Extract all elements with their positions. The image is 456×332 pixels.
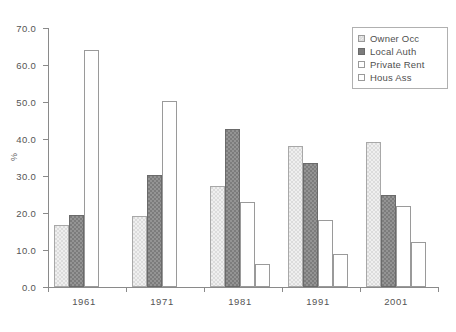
bar-1991-hous-ass xyxy=(333,254,348,287)
y-axis-tick xyxy=(43,65,48,66)
y-axis-tick xyxy=(43,176,48,177)
legend-item-private-rent[interactable]: Private Rent xyxy=(358,58,442,71)
legend-swatch-icon xyxy=(358,35,365,42)
legend-label: Local Auth xyxy=(370,46,416,57)
x-axis-label-1981: 1981 xyxy=(228,296,252,307)
bar-1961-owner-occ xyxy=(54,225,69,287)
y-axis-label: 30.0 xyxy=(0,171,36,182)
bar-2001-local-auth xyxy=(381,195,396,288)
y-axis-tick xyxy=(43,250,48,251)
legend-swatch-icon xyxy=(358,61,365,68)
x-axis-line xyxy=(48,287,439,288)
y-axis-tick xyxy=(43,28,48,29)
legend-swatch-icon xyxy=(358,74,365,81)
legend-label: Owner Occ xyxy=(370,33,419,44)
x-axis-label-1961: 1961 xyxy=(72,296,96,307)
x-axis-tick xyxy=(126,287,127,292)
x-axis-label-2001: 2001 xyxy=(384,296,408,307)
y-axis-label: 10.0 xyxy=(0,245,36,256)
x-axis-label-1991: 1991 xyxy=(306,296,330,307)
legend-label: Hous Ass xyxy=(370,72,412,83)
bar-1981-private-rent xyxy=(240,202,255,287)
y-axis-tick xyxy=(43,102,48,103)
bar-1971-owner-occ xyxy=(132,216,147,287)
legend-label: Private Rent xyxy=(370,59,425,70)
bar-2001-private-rent xyxy=(396,206,411,287)
bar-1981-local-auth xyxy=(225,129,240,287)
x-axis-tick xyxy=(360,287,361,292)
bar-1971-private-rent xyxy=(162,101,177,287)
y-axis-title: % xyxy=(9,153,19,161)
y-axis-label: 0.0 xyxy=(0,282,36,293)
bar-1991-private-rent xyxy=(318,220,333,287)
bar-1961-local-auth xyxy=(69,215,84,287)
y-axis-label: 70.0 xyxy=(0,23,36,34)
bar-1981-owner-occ xyxy=(210,186,225,287)
legend-item-hous-ass[interactable]: Hous Ass xyxy=(358,71,442,84)
x-axis-tick xyxy=(48,287,49,292)
y-axis-label: 60.0 xyxy=(0,60,36,71)
x-axis-label-1971: 1971 xyxy=(150,296,174,307)
bar-2001-owner-occ xyxy=(366,142,381,287)
bar-1991-local-auth xyxy=(303,163,318,287)
y-axis-tick xyxy=(43,213,48,214)
y-axis-label: 20.0 xyxy=(0,208,36,219)
legend-item-owner-occ[interactable]: Owner Occ xyxy=(358,32,442,45)
legend-item-local-auth[interactable]: Local Auth xyxy=(358,45,442,58)
bar-1971-local-auth xyxy=(147,175,162,287)
legend-swatch-icon xyxy=(358,48,365,55)
y-axis-label: 40.0 xyxy=(0,134,36,145)
x-axis-tick xyxy=(438,287,439,292)
bar-1991-owner-occ xyxy=(288,146,303,287)
chart-legend: Owner OccLocal AuthPrivate RentHous Ass xyxy=(352,27,448,89)
bar-1961-private-rent xyxy=(84,50,99,287)
y-axis-tick xyxy=(43,139,48,140)
bar-2001-hous-ass xyxy=(411,242,426,287)
bar-chart: % 0.010.020.030.040.050.060.070.0 196119… xyxy=(0,0,456,332)
bar-1981-hous-ass xyxy=(255,264,270,287)
y-axis-label: 50.0 xyxy=(0,97,36,108)
x-axis-tick xyxy=(282,287,283,292)
x-axis-tick xyxy=(204,287,205,292)
